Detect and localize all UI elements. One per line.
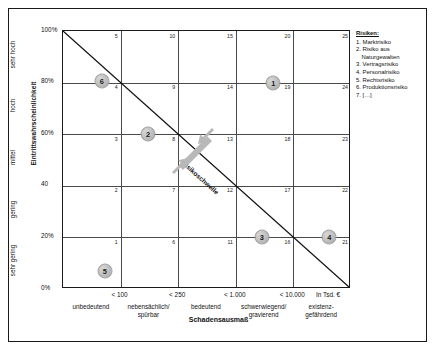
y-axis-title: Eintrittswahrscheinlichkeit (30, 44, 37, 204)
risk-marker-2[interactable]: 2 (140, 127, 155, 142)
cell-number: 1 (115, 239, 118, 245)
cell-number: 4 (115, 84, 118, 90)
risk-legend: Risiken: 1. Marktrisiko2. Risiko ausNatu… (356, 30, 424, 99)
x-tick-label: < 250 (169, 291, 185, 298)
x-tick-label: < 1.000 (224, 291, 246, 298)
cell-number: 6 (172, 239, 175, 245)
x-axis-unit: In Tsd. € (316, 291, 340, 298)
cell-number: 19 (285, 84, 291, 90)
y-category-label: hoch (9, 80, 16, 132)
risk-direction-arrow (158, 116, 228, 186)
legend-item: 2. Risiko aus (356, 46, 424, 54)
cell-number: 14 (227, 84, 233, 90)
legend-item: 4. Personalrisiko (356, 69, 424, 77)
x-category-line: gravierend (233, 311, 295, 319)
y-tick-label: 80% (41, 77, 54, 84)
y-category-label: gering (9, 183, 16, 235)
x-category-line: nebensächlich/ (117, 303, 179, 311)
y-tick-label: 0% (41, 284, 50, 291)
y-tick-label: 20% (41, 232, 54, 239)
legend-item-continuation: Naturgewalten (356, 54, 424, 62)
cell-number: 3 (115, 136, 118, 142)
cell-number: 23 (342, 136, 348, 142)
x-category-line: schwerwiegend/ (233, 303, 295, 311)
risk-marker-4[interactable]: 4 (322, 230, 337, 245)
cell-number: 11 (227, 239, 232, 245)
cell-number: 2 (115, 187, 118, 193)
cell-number: 21 (342, 239, 348, 245)
x-category-line: gefährdend (290, 311, 352, 319)
y-tick-label: 40 (41, 180, 48, 187)
x-category-label: bedeutend (175, 303, 237, 311)
x-category-line: bedeutend (175, 303, 237, 311)
risk-marker-5[interactable]: 5 (97, 263, 112, 278)
cell-number: 12 (227, 187, 233, 193)
cell-number: 15 (227, 33, 233, 39)
y-category-label: sehr gering (9, 235, 16, 287)
risk-marker-6[interactable]: 6 (94, 74, 109, 89)
x-category-label: schwerwiegend/gravierend (233, 303, 295, 319)
legend-title: Risiken: (356, 30, 424, 38)
legend-item: 6. Produktionsrisiko (356, 84, 424, 92)
cell-number: 24 (342, 84, 348, 90)
risk-marker-1[interactable]: 1 (266, 75, 281, 90)
x-category-line: existenz- (290, 303, 352, 311)
x-tick-label: < 100 (112, 291, 128, 298)
cell-number: 16 (285, 239, 291, 245)
legend-item: 5. Rechtsrisiko (356, 77, 424, 85)
y-tick-label: 60% (41, 129, 54, 136)
cell-number: 25 (342, 33, 348, 39)
cell-number: 5 (115, 33, 118, 39)
x-category-label: existenz-gefährdend (290, 303, 352, 319)
risk-matrix-plot: 5101520254914192438131823271217221611162… (62, 30, 350, 288)
x-category-label: nebensächlich/spürbar (117, 303, 179, 319)
risk-matrix-figure: Eintrittswahrscheinlichkeit Schadensausm… (0, 0, 437, 361)
cell-number: 22 (342, 187, 348, 193)
x-tick-label: < 10.000 (280, 291, 305, 298)
y-tick-label: 100% (41, 26, 57, 33)
x-axis-title: Schadensausmaß (0, 316, 437, 323)
y-category-label: sehr hoch (9, 28, 16, 80)
legend-item: 3. Vertragsrisiko (356, 61, 424, 69)
legend-items: 1. Marktrisiko2. Risiko ausNaturgewalten… (356, 39, 424, 100)
x-category-label: unbedeutend (60, 303, 122, 311)
cell-number: 7 (172, 187, 175, 193)
y-category-label: mittel (9, 132, 16, 184)
risk-marker-3[interactable]: 3 (254, 230, 269, 245)
cell-number: 18 (285, 136, 291, 142)
cell-number: 10 (169, 33, 175, 39)
cell-number: 20 (285, 33, 291, 39)
x-category-line: spürbar (117, 311, 179, 319)
legend-item: 7. […] (356, 92, 424, 100)
legend-item: 1. Marktrisiko (356, 39, 424, 47)
cell-number: 9 (172, 84, 175, 90)
x-category-line: unbedeutend (60, 303, 122, 311)
cell-number: 17 (285, 187, 291, 193)
